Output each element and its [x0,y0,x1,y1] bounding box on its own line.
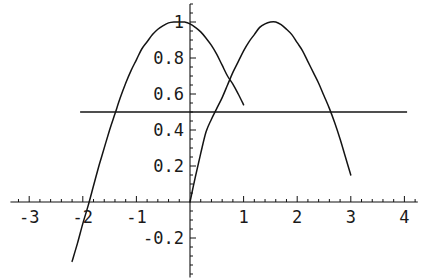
x-tick-label: 1 [238,209,248,226]
plot-canvas [0,0,424,279]
y-tick-label: 0.4 [153,122,184,139]
y-tick-label: -0.2 [143,230,184,247]
x-tick-label: -2 [73,209,93,226]
tick-marks-group [18,4,415,274]
plot-figure: -3-2-11234-0.20.20.40.60.81 [0,0,424,279]
y-tick-label: 0.2 [153,158,184,175]
y-tick-label: 0.8 [153,50,184,67]
y-tick-label: 1 [174,14,184,31]
x-tick-label: 2 [292,209,302,226]
x-tick-label: -3 [19,209,39,226]
axes-group [10,4,417,278]
x-tick-label: 4 [399,209,409,226]
x-tick-label: -1 [126,209,146,226]
y-tick-label: 0.6 [153,86,184,103]
x-tick-label: 3 [346,209,356,226]
